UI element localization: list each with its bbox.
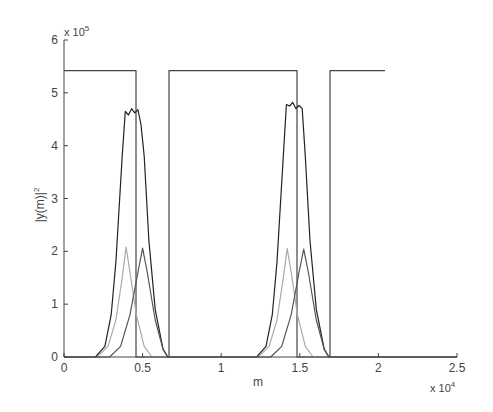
x-tick-label: 0.5 xyxy=(134,361,151,375)
y-multiplier-label: x 105 xyxy=(64,24,90,38)
x-tick-label: 1.5 xyxy=(291,361,308,375)
y-ticks: 0123456 xyxy=(51,33,68,364)
y-tick-label: 5 xyxy=(51,86,58,100)
x-tick-label: 2.5 xyxy=(449,361,466,375)
y-axis-label: |y(m)|2 xyxy=(32,187,47,222)
y-tick-label: 2 xyxy=(51,244,58,258)
y-tick-label: 4 xyxy=(51,139,58,153)
series-line-2 xyxy=(64,102,457,357)
plot-series xyxy=(64,71,457,357)
axes xyxy=(64,40,457,357)
y-tick-label: 0 xyxy=(51,350,58,364)
y-tick-label: 1 xyxy=(51,297,58,311)
x-ticks: 00.511.522.5 xyxy=(61,353,466,375)
x-tick-label: 1 xyxy=(218,361,225,375)
x-tick-label: 0 xyxy=(61,361,68,375)
x-axis-label: m xyxy=(253,375,263,389)
y-tick-label: 6 xyxy=(51,33,58,47)
series-line-1 xyxy=(64,71,385,357)
x-tick-label: 2 xyxy=(375,361,382,375)
series-line-4 xyxy=(64,248,457,357)
line-chart: 0123456 00.511.522.5 x 105 x 104 m |y(m)… xyxy=(0,0,493,412)
y-tick-label: 3 xyxy=(51,192,58,206)
x-multiplier-label: x 104 xyxy=(430,380,456,394)
